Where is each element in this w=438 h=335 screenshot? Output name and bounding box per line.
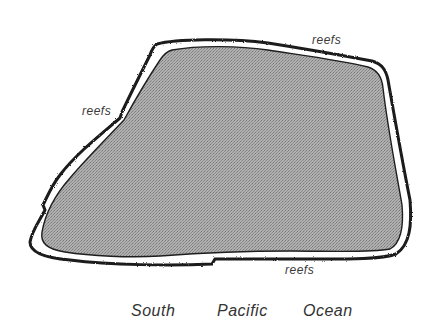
island-map [0, 0, 438, 335]
ocean-label-south: South [131, 302, 175, 320]
reef-label-top: reefs [312, 33, 341, 47]
reef-label-left: reefs [82, 104, 111, 118]
reef-label-bottom: reefs [285, 263, 314, 277]
ocean-label-pacific: Pacific [217, 302, 268, 320]
ocean-label-ocean: Ocean [303, 302, 353, 320]
island-landmass [42, 47, 403, 257]
